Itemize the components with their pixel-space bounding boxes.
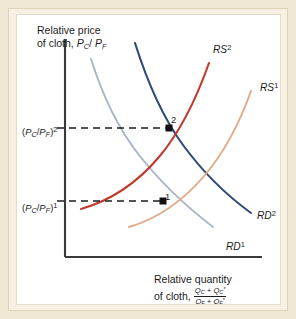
curve-rs1 [129, 91, 251, 227]
equilibrium-point-1-label: 1 [165, 191, 170, 203]
curve-label-rd1-base: RD [226, 241, 241, 252]
y-axis-price-food-subscript: F [102, 42, 107, 51]
x-axis-title-line1: Relative quantity [154, 273, 232, 286]
curve-label-rs1: RS1 [260, 81, 278, 95]
y-axis-title-line2: of cloth, PC/ PF [37, 37, 106, 51]
curve-label-rd2: RD2 [257, 209, 276, 223]
x-axis-quantity-fraction: QC + QC* QF + QF* [194, 286, 227, 305]
curve-label-rs1-sup: 1 [274, 81, 278, 90]
curve-label-rs2-sup: 2 [227, 43, 231, 52]
x-axis-fraction-denominator: QF + QF* [194, 296, 226, 305]
curve-label-rd2-base: RD [257, 210, 272, 221]
y-axis-title-prefix: of cloth, [37, 37, 77, 49]
curve-label-rs2: RS2 [213, 43, 231, 57]
y-tick-label-price-1: (PC/PF)1 [22, 201, 57, 215]
y-axis-price-cloth-symbol: P [77, 37, 84, 49]
y-axis-title-line1: Relative price [37, 24, 106, 37]
curve-label-rd1-sup: 1 [241, 240, 245, 249]
y-axis-title: Relative price of cloth, PC/ PF [37, 24, 106, 51]
x-axis-title-prefix: of cloth, [154, 290, 191, 303]
y1-superscript: 1 [53, 201, 57, 210]
x-frac-num-b-star: * [223, 286, 225, 292]
x-axis-title-line2: of cloth, QC + QC* QF + QF* [154, 287, 232, 305]
x-axis-title: Relative quantity of cloth, QC + QC* QF … [154, 273, 232, 305]
y-tick-label-price-2: (PC/PF)2 [22, 125, 57, 139]
curve-label-rd2-sup: 2 [272, 209, 276, 218]
chart-panel: Relative price of cloth, PC/ PF Relative… [16, 14, 281, 305]
y-axis-price-food-symbol: P [95, 37, 102, 49]
y2-superscript: 2 [53, 125, 57, 134]
figure-root: Relative price of cloth, PC/ PF Relative… [0, 0, 296, 319]
curve-label-rs2-base: RS [213, 44, 227, 55]
curve-label-rd1: RD1 [226, 240, 245, 254]
chart-plot-area [17, 15, 281, 305]
equilibrium-point-2-label: 2 [171, 114, 176, 126]
curve-label-rs1-base: RS [260, 82, 274, 93]
curve-rd1 [91, 59, 213, 227]
x-axis-fraction-numerator: QC + QC* [194, 286, 227, 295]
x-frac-den-b-star: * [223, 297, 225, 303]
